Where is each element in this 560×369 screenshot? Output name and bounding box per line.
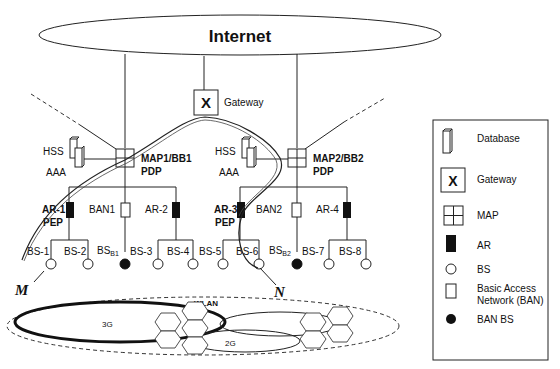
legend-ban-label-1: Basic Access bbox=[477, 283, 536, 294]
dashed-ext-right bbox=[344, 98, 385, 122]
trajectory-start-pointer bbox=[34, 271, 44, 282]
bs-2-label: BS-2 bbox=[64, 246, 87, 257]
gateway-label: Gateway bbox=[224, 97, 263, 108]
wlan-hex-cluster-2 bbox=[300, 307, 353, 348]
bs-4-label: BS-4 bbox=[167, 246, 190, 257]
hss-label-1: HSS bbox=[43, 146, 64, 157]
pep-2-label: PEP bbox=[215, 217, 235, 228]
ar-3-node bbox=[237, 202, 245, 218]
ban-2-label: BAN2 bbox=[256, 204, 283, 215]
gateway-icon: X bbox=[441, 168, 465, 192]
svg-text:X: X bbox=[448, 173, 458, 189]
link-map1-ext bbox=[80, 125, 116, 149]
bs-b2-label: BSB2 bbox=[269, 245, 291, 257]
pdp1-label: PDP bbox=[141, 166, 162, 177]
bs-3-node bbox=[153, 259, 163, 269]
database-icon bbox=[242, 137, 256, 167]
map2-node bbox=[288, 149, 306, 167]
legend-ar-label: AR bbox=[477, 240, 491, 251]
bs-4-node bbox=[188, 259, 198, 269]
trajectory-end-pointer bbox=[260, 268, 276, 285]
map2-label: MAP2/BB2 bbox=[313, 153, 364, 164]
gateway-x-glyph: X bbox=[201, 94, 211, 111]
bs-8-label: BS-8 bbox=[339, 246, 362, 257]
bs-1-label: BS-1 bbox=[27, 246, 50, 257]
trajectory-start-label: M bbox=[14, 282, 29, 298]
wlan-hex-cluster-1 bbox=[155, 302, 208, 354]
ar-icon bbox=[446, 235, 456, 252]
ar-2-node bbox=[172, 202, 180, 218]
bs-7-node bbox=[324, 259, 334, 269]
bs-8-node bbox=[361, 259, 371, 269]
bs-5-node bbox=[218, 259, 228, 269]
ar-4-label: AR-4 bbox=[316, 204, 339, 215]
ban-1-node bbox=[121, 203, 130, 217]
hss-label-2: HSS bbox=[215, 146, 236, 157]
pdp2-label: PDP bbox=[313, 166, 334, 177]
legend-database-label: Database bbox=[477, 133, 520, 144]
ar-3-label: AR-3 bbox=[214, 204, 238, 215]
bs-1-node bbox=[46, 259, 56, 269]
domain-2: HSS AAA MAP2/BB2 PDP AR-3 PEP BAN2 AR-4 bbox=[199, 137, 371, 269]
internet-cloud: Internet bbox=[39, 15, 441, 55]
legend-map-label: MAP bbox=[477, 210, 499, 221]
network-diagram: Internet X Gateway HSS AAA MAP1/BB1 P bbox=[0, 0, 560, 369]
bs-3-label: BS-3 bbox=[130, 246, 153, 257]
map1-label: MAP1/BB1 bbox=[141, 153, 192, 164]
ban-icon bbox=[446, 284, 456, 298]
bs-icon bbox=[446, 264, 456, 274]
bs-5-label: BS-5 bbox=[199, 246, 222, 257]
aaa-label-1: AAA bbox=[46, 167, 66, 178]
legend-gateway-label: Gateway bbox=[477, 174, 516, 185]
legend-ban-bs-label: BAN BS bbox=[477, 314, 514, 325]
internet-label: Internet bbox=[209, 27, 272, 46]
ar-2-label: AR-2 bbox=[145, 204, 168, 215]
database-icon bbox=[70, 137, 84, 167]
ar-4-node bbox=[343, 202, 351, 218]
coverage-area: 3G 2G WLAN bbox=[7, 297, 399, 355]
trajectory-end-label: N bbox=[273, 284, 286, 300]
dashed-ext-left bbox=[31, 94, 80, 125]
2g-label: 2G bbox=[225, 339, 236, 348]
3g-label: 3G bbox=[102, 320, 113, 329]
ar-1-node bbox=[66, 202, 74, 218]
ban-1-label: BAN1 bbox=[89, 204, 116, 215]
bs-b1-node bbox=[120, 259, 130, 269]
bs-6-label: BS-6 bbox=[236, 246, 259, 257]
legend-ban-label-2: Network (BAN) bbox=[477, 295, 544, 306]
gateway-node: X Gateway bbox=[194, 90, 263, 115]
bs-7-label: BS-7 bbox=[302, 246, 325, 257]
domain-1: HSS AAA MAP1/BB1 PDP AR-1 PEP BAN1 AR-2 bbox=[27, 137, 198, 269]
bs-b2-node bbox=[292, 259, 302, 269]
bs-b1-label: BSB1 bbox=[97, 245, 119, 257]
legend-bs-label: BS bbox=[477, 264, 491, 275]
ban-2-node bbox=[292, 203, 301, 217]
map-icon bbox=[444, 206, 463, 225]
ban-bs-icon bbox=[446, 314, 456, 324]
link-map2-ext bbox=[305, 122, 344, 149]
legend: Database X Gateway MAP AR BS Basic Acces… bbox=[433, 120, 548, 360]
bs-2-node bbox=[83, 259, 93, 269]
aaa-label-2: AAA bbox=[219, 167, 239, 178]
